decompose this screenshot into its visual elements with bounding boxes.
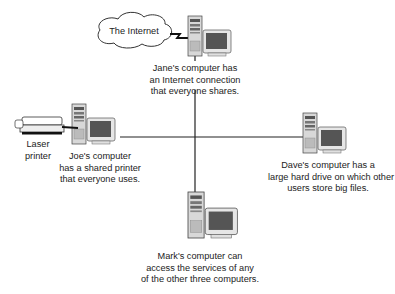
- mark-caption: Mark's computer can access the services …: [140, 251, 260, 286]
- joe-caption: Joe's computer has a shared printer that…: [50, 151, 150, 186]
- mark-computer-icon: [188, 192, 237, 238]
- cloud-label: The Internet: [108, 26, 160, 38]
- joe-computer-icon: [72, 104, 115, 144]
- dave-computer-icon: [303, 113, 346, 153]
- jane-caption: Jane's computer has an Internet connecti…: [145, 63, 245, 98]
- printer-cable: [62, 127, 78, 128]
- laser-printer-icon: [15, 117, 64, 135]
- jane-computer-icon: [188, 16, 231, 56]
- dave-caption: Dave's computer has a large hard drive o…: [268, 160, 388, 195]
- lightning-link-icon: [170, 34, 188, 38]
- network-diagram: [0, 0, 395, 294]
